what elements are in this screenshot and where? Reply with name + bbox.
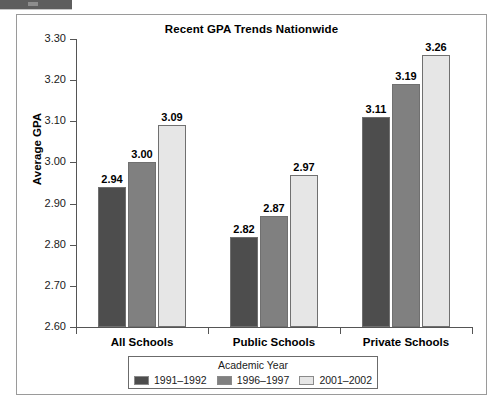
legend-title: Academic Year xyxy=(129,359,377,371)
plot-area: 2.943.003.092.822.872.973.113.193.26 xyxy=(76,39,472,327)
bar-value-label: 2.82 xyxy=(233,223,254,235)
x-tick-mark xyxy=(472,328,473,334)
bar: 3.19 xyxy=(392,84,420,327)
bar-value-label: 3.11 xyxy=(366,103,387,115)
bar: 3.26 xyxy=(422,55,450,327)
bar: 2.94 xyxy=(98,187,126,327)
legend-swatch xyxy=(217,376,232,385)
titlebar-icon xyxy=(28,2,38,6)
y-tick-label: 3.20 xyxy=(45,73,66,85)
bar: 2.97 xyxy=(290,175,318,327)
legend-item[interactable]: 1996–1997 xyxy=(217,374,290,386)
x-tick-mark xyxy=(208,328,209,334)
bar: 2.87 xyxy=(260,216,288,327)
window-titlebar-fragment xyxy=(0,0,72,10)
y-tick-label: 2.80 xyxy=(45,238,66,250)
bar-value-label: 2.97 xyxy=(293,161,314,173)
y-tick-label: 3.30 xyxy=(45,32,66,44)
y-tick-label: 3.00 xyxy=(45,155,66,167)
bar-value-label: 3.19 xyxy=(395,70,416,82)
chart-legend: Academic Year 1991–19921996–19972001–200… xyxy=(128,356,378,389)
bar: 2.82 xyxy=(230,237,258,328)
legend-label: 2001–2002 xyxy=(319,374,372,386)
y-tick-label: 2.90 xyxy=(45,197,66,209)
x-axis-category-label: Private Schools xyxy=(336,336,476,348)
y-tick-label: 2.70 xyxy=(45,279,66,291)
legend-label: 1991–1992 xyxy=(154,374,207,386)
bar: 3.11 xyxy=(362,117,390,327)
x-axis-category-label: All Schools xyxy=(72,336,212,348)
bar-value-label: 2.94 xyxy=(101,173,122,185)
bar-value-label: 2.87 xyxy=(263,202,284,214)
x-tick-mark xyxy=(340,328,341,334)
legend-items: 1991–19921996–19972001–2002 xyxy=(134,374,372,386)
x-tick-mark xyxy=(76,328,77,334)
bar-value-label: 3.26 xyxy=(425,41,446,53)
chart-figure: Recent GPA Trends Nationwide Average GPA… xyxy=(16,14,487,395)
bar-value-label: 3.00 xyxy=(131,148,152,160)
legend-swatch xyxy=(299,376,314,385)
x-axis-category-label: Public Schools xyxy=(204,336,344,348)
y-axis-title: Average GPA xyxy=(31,89,43,209)
x-axis-line xyxy=(76,327,473,328)
bar: 3.09 xyxy=(158,125,186,327)
legend-item[interactable]: 2001–2002 xyxy=(299,374,372,386)
legend-label: 1996–1997 xyxy=(237,374,290,386)
y-tick-label: 3.10 xyxy=(45,114,66,126)
bar: 3.00 xyxy=(128,162,156,327)
legend-swatch xyxy=(134,376,149,385)
y-tick-label: 2.60 xyxy=(45,320,66,332)
legend-item[interactable]: 1991–1992 xyxy=(134,374,207,386)
bar-value-label: 3.09 xyxy=(161,111,182,123)
chart-title: Recent GPA Trends Nationwide xyxy=(17,23,486,35)
